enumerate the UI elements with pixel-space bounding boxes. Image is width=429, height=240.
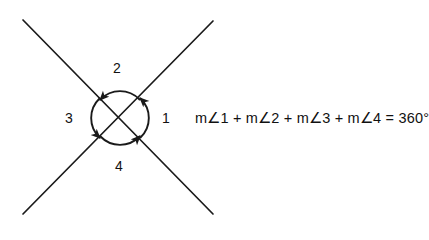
angle-label-4: 4 [115, 159, 123, 173]
angle-3-arc [91, 99, 99, 138]
angle-label-3: 3 [65, 111, 73, 125]
angle-4-arc [101, 137, 140, 145]
angle-2-arc [101, 91, 140, 99]
angle-sum-equation: m∠1 + m∠2 + m∠3 + m∠4 = 360° [195, 111, 429, 126]
angle-1-arc [141, 99, 149, 138]
angle-label-2: 2 [113, 61, 121, 75]
angle-label-1: 1 [162, 111, 170, 125]
